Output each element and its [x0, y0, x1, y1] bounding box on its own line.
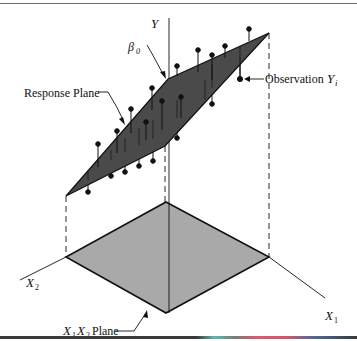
response-plane [66, 33, 269, 196]
y-axis-label: Y [151, 16, 160, 31]
regression-plane-diagram: Y β 0 Response Plane Observation Y i X 2… [0, 0, 357, 341]
frame-top-border [0, 3, 357, 4]
svg-text:β: β [127, 40, 134, 54]
beta0-label: β 0 [127, 40, 140, 56]
svg-text:X: X [25, 275, 35, 290]
svg-text:0: 0 [136, 47, 140, 56]
x1-axis [269, 257, 325, 298]
observation-label: Observation Y i [265, 71, 338, 88]
response-plane-label: Response Plane [24, 86, 100, 100]
diagram-canvas: Y β 0 Response Plane Observation Y i X 2… [0, 0, 357, 341]
svg-text:Observation: Observation [265, 72, 324, 86]
frame-bottom-border [0, 336, 357, 339]
x1-axis-label: X 1 [324, 308, 338, 325]
x1x2-plane [66, 202, 269, 313]
svg-text:1: 1 [334, 316, 338, 325]
svg-text:X: X [324, 308, 334, 323]
x2-axis-label: X 2 [25, 275, 39, 292]
svg-text:i: i [335, 78, 338, 88]
svg-text:2: 2 [35, 283, 39, 292]
